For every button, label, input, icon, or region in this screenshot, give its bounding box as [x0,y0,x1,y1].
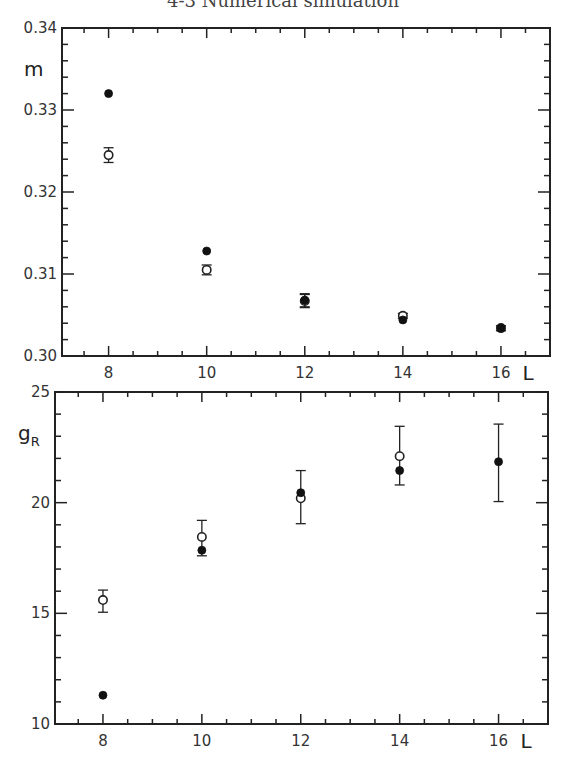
plot-frame [55,392,548,724]
filled-circle-point [301,296,309,304]
x-tick-label: 10 [192,732,211,750]
filled-circle-point [399,316,407,324]
y-axis-title: gR [18,421,40,449]
filled-circle-point [297,489,305,497]
x-tick-label: 16 [491,364,510,382]
y-tick-label: 25 [31,383,50,401]
y-tick-label: 0.32 [24,183,57,201]
y-tick-label: 0.33 [24,101,57,119]
renormalized-coupling-chart: 81012141610152025LgR [18,383,548,753]
open-circle-point [104,151,112,159]
x-tick-label: 10 [197,364,216,382]
y-axis-title: m [24,57,43,81]
open-circle-point [198,533,206,541]
filled-circle-point [497,324,505,332]
x-axis-title: L [520,729,532,753]
open-circle-point [202,266,210,274]
filled-circle-point [495,458,503,466]
x-tick-label: 8 [98,732,108,750]
y-tick-label: 0.30 [24,347,57,365]
y-tick-label: 0.31 [24,265,57,283]
open-circle-point [395,452,403,460]
magnetization-chart: 8101214160.300.310.320.330.34Lm [24,19,550,385]
filled-circle-point [203,247,211,255]
filled-circle-point [396,467,404,475]
x-tick-label: 16 [489,732,508,750]
x-tick-label: 12 [291,732,310,750]
figure: 8101214160.300.310.320.330.34Lm 81012141… [0,0,566,764]
x-tick-label: 12 [295,364,314,382]
y-tick-label: 15 [31,604,50,622]
filled-circle-point [198,546,206,554]
filled-circle-point [105,90,113,98]
x-tick-label: 14 [390,732,409,750]
filled-circle-point [99,691,107,699]
y-axis-subscript: R [31,434,40,449]
x-axis-title: L [522,361,534,385]
y-tick-label: 0.34 [24,19,57,37]
open-circle-point [99,596,107,604]
x-tick-label: 14 [393,364,412,382]
y-tick-label: 10 [31,715,50,733]
y-tick-label: 20 [31,494,50,512]
x-tick-label: 8 [104,364,114,382]
